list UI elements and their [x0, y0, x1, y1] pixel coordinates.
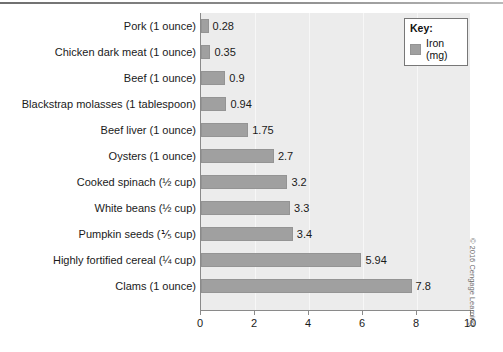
x-axis-line: [200, 310, 471, 311]
category-label: White beans (½ cup): [95, 195, 197, 221]
legend-entry: Iron (mg): [410, 37, 462, 61]
bar: [201, 201, 290, 215]
bar: [201, 227, 293, 241]
bar-value-label: 5.94: [365, 247, 386, 273]
category-label: Blackstrap molasses (1 tablespoon): [22, 91, 196, 117]
copyright-notice: © 2016 Cengage Learning: [468, 238, 477, 326]
legend-title: Key:: [410, 22, 462, 34]
chart-row: Cooked spinach (½ cup)3.2: [0, 169, 503, 195]
chart-row: Clams (1 ounce)7.8: [0, 273, 503, 299]
chart-row: Oysters (1 ounce)2.7: [0, 143, 503, 169]
chart-row: Beef (1 ounce)0.9: [0, 65, 503, 91]
legend-swatch-icon: [410, 44, 421, 55]
category-label: Beef liver (1 ounce): [101, 117, 196, 143]
bar: [201, 71, 225, 85]
bar: [201, 45, 210, 59]
category-label: Clams (1 ounce): [115, 273, 196, 299]
category-label: Pumpkin seeds (⅕ cup): [79, 221, 196, 247]
bar: [201, 279, 412, 293]
bar-value-label: 3.2: [291, 169, 306, 195]
chart-row: Blackstrap molasses (1 tablespoon)0.94: [0, 91, 503, 117]
bar-value-label: 2.7: [278, 143, 293, 169]
category-label: Chicken dark meat (1 ounce): [55, 39, 196, 65]
category-label: Cooked spinach (½ cup): [77, 169, 196, 195]
bar: [201, 19, 209, 33]
chart-row: White beans (½ cup)3.3: [0, 195, 503, 221]
chart-row: Highly fortified cereal (¼ cup)5.94: [0, 247, 503, 273]
category-label: Beef (1 ounce): [124, 65, 196, 91]
bar-value-label: 0.28: [213, 13, 234, 39]
x-axis-tick-label: 2: [234, 317, 274, 329]
x-axis-tick-label: 8: [396, 317, 436, 329]
bar-value-label: 0.94: [230, 91, 251, 117]
bar-value-label: 3.4: [297, 221, 312, 247]
bar: [201, 97, 226, 111]
bar: [201, 123, 248, 137]
x-axis-tick: [416, 310, 417, 315]
chart-legend: Key: Iron (mg): [404, 18, 468, 66]
bar-value-label: 7.8: [416, 273, 431, 299]
bar-value-label: 0.35: [214, 39, 235, 65]
bar-value-label: 0.9: [229, 65, 244, 91]
chart-row: Pumpkin seeds (⅕ cup)3.4: [0, 221, 503, 247]
legend-entry-label: Iron (mg): [426, 37, 462, 61]
x-axis-tick-label: 0: [180, 317, 220, 329]
bar: [201, 149, 274, 163]
x-axis-tick: [254, 310, 255, 315]
bar: [201, 175, 287, 189]
x-axis-tick: [200, 310, 201, 315]
category-label: Highly fortified cereal (¼ cup): [53, 247, 196, 273]
chart-row: Beef liver (1 ounce)1.75: [0, 117, 503, 143]
top-rule: [0, 2, 503, 4]
x-axis-tick-label: 6: [342, 317, 382, 329]
x-axis-tick-label: 4: [288, 317, 328, 329]
x-axis-tick: [362, 310, 363, 315]
x-axis-tick: [308, 310, 309, 315]
bar-value-label: 3.3: [294, 195, 309, 221]
category-label: Pork (1 ounce): [124, 13, 196, 39]
bar-value-label: 1.75: [252, 117, 273, 143]
category-label: Oysters (1 ounce): [109, 143, 196, 169]
bar: [201, 253, 361, 267]
